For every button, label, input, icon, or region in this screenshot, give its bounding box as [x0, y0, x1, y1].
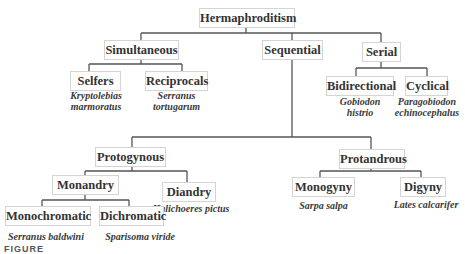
species-dichromatic: Sparisoma viride [104, 231, 176, 242]
node-cyclical: Cyclical [405, 76, 448, 96]
node-monochromatic: Monochromatic [5, 206, 91, 226]
species-cyclical: Paragobiodon echinocephalus [392, 96, 462, 118]
node-protogynous: Protogynous [95, 147, 166, 167]
species-line: echinocephalus [392, 107, 462, 118]
species-line: marmoratus [60, 101, 132, 112]
node-diandry: Diandry [162, 182, 216, 202]
node-hermaphroditism: Hermaphroditism [199, 8, 295, 28]
node-monogyny: Monogyny [292, 177, 355, 197]
species-monogyny: Sarpa salpa [292, 200, 355, 211]
species-bidirectional: Gobiodon histrio [326, 96, 394, 118]
species-selfers: Kryptolebias marmoratus [60, 90, 132, 112]
species-line: Paragobiodon [392, 96, 462, 107]
node-digyny: Digyny [400, 177, 446, 197]
species-line: Kryptolebias [60, 90, 132, 101]
species-monochromatic: Serranus baldwini [5, 231, 87, 242]
species-line: Gobiodon [326, 96, 394, 107]
node-reciprocals: Reciprocals [145, 71, 208, 91]
node-protandrous: Protandrous [339, 149, 405, 169]
species-line: Serranus [145, 90, 208, 101]
node-bidirectional: Bidirectional [326, 76, 394, 96]
node-serial: Serial [362, 42, 401, 62]
species-reciprocals: Serranus tortugarum [145, 90, 208, 112]
node-monandry: Monandry [52, 175, 119, 195]
species-digyny: Lates calcarifer [388, 199, 464, 210]
species-line: histrio [326, 107, 394, 118]
node-selfers: Selfers [70, 71, 121, 91]
figure-caption-fragment: FIGURE [4, 244, 44, 254]
species-line: tortugarum [145, 101, 208, 112]
node-sequential: Sequential [262, 40, 323, 60]
node-simultaneous: Simultaneous [104, 40, 179, 60]
node-dichromatic: Dichromatic [99, 206, 164, 226]
